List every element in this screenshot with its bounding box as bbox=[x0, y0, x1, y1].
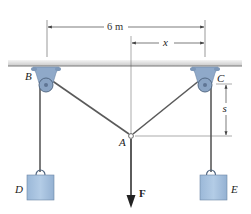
pulley-c-label: C bbox=[217, 72, 225, 84]
force-arrow bbox=[127, 139, 136, 208]
sag-label: s bbox=[223, 102, 227, 114]
pulley-b-label: B bbox=[25, 70, 32, 82]
pulley-b bbox=[31, 67, 61, 92]
sag-dimension: s bbox=[135, 84, 232, 136]
block-e bbox=[200, 170, 227, 200]
pulley-system-diagram: 6 m x s B C A bbox=[0, 0, 251, 214]
block-d bbox=[27, 170, 54, 200]
pulley-c bbox=[190, 67, 220, 92]
force-label: F bbox=[139, 187, 146, 199]
block-d-label: D bbox=[14, 183, 23, 195]
block-e-label: E bbox=[230, 183, 238, 195]
ceiling bbox=[8, 60, 242, 66]
junction-a-label: A bbox=[118, 136, 126, 148]
span-dimension: 6 m bbox=[47, 20, 205, 57]
cables bbox=[40, 80, 211, 172]
junction-a bbox=[129, 134, 134, 139]
span-label: 6 m bbox=[107, 21, 123, 32]
offset-label: x bbox=[162, 36, 168, 48]
